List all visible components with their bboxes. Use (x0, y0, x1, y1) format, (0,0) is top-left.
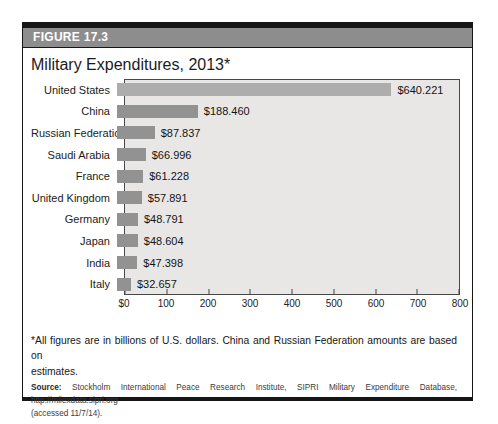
category-label: India (31, 257, 117, 269)
x-tick-label: 800 (452, 298, 469, 309)
footnote-line2: estimates. (31, 364, 457, 379)
bar-track: $48.791 (117, 213, 460, 226)
bar-row: China$188.460 (31, 101, 460, 123)
value-label: $32.657 (137, 278, 177, 290)
value-label: $48.791 (144, 213, 184, 225)
footnote-line1: *All figures are in billions of U.S. dol… (31, 333, 457, 364)
bar (117, 170, 143, 183)
bar-track: $66.996 (117, 148, 460, 161)
x-tick-label: 100 (158, 298, 175, 309)
bar-track: $61.228 (117, 170, 460, 183)
chart-title: Military Expenditures, 2013* (31, 56, 460, 74)
x-tick-label: 700 (410, 298, 427, 309)
bar-row: Italy$32.657 (31, 273, 460, 295)
bar-row: Japan$48.604 (31, 230, 460, 252)
category-label: Italy (31, 278, 117, 290)
source-line1: Source: Stockholm International Peace Re… (31, 382, 457, 407)
value-label: $188.460 (204, 105, 250, 117)
bar-track: $47.398 (117, 256, 460, 269)
bar-row: Germany$48.791 (31, 209, 460, 231)
source-text: Stockholm International Peace Research I… (31, 383, 457, 405)
bar (117, 256, 137, 269)
x-tick-label: $0 (118, 298, 129, 309)
bar-track: $57.891 (117, 191, 460, 204)
bar (117, 191, 142, 204)
source-note: Source: Stockholm International Peace Re… (31, 382, 460, 420)
bar-track: $640.221 (117, 83, 460, 96)
bar (117, 83, 391, 96)
bar-row: India$47.398 (31, 252, 460, 274)
x-tick-label: 300 (242, 298, 259, 309)
bar-track: $32.657 (117, 278, 460, 291)
x-axis: $0100200300400500600700800 (124, 296, 460, 311)
bar-row: France$61.228 (31, 165, 460, 187)
x-tick-label: 400 (284, 298, 301, 309)
value-label: $48.604 (144, 235, 184, 247)
category-label: Japan (31, 235, 117, 247)
bar-track: $188.460 (117, 105, 460, 118)
figure-box: FIGURE 17.3 Military Expenditures, 2013*… (22, 22, 473, 405)
bar (117, 148, 146, 161)
source-line2: (accessed 11/7/14). (31, 408, 457, 421)
category-label: China (31, 105, 117, 117)
x-tick-label: 500 (326, 298, 343, 309)
x-tick-label: 600 (368, 298, 385, 309)
figure-body: Military Expenditures, 2013* United Stat… (22, 48, 473, 401)
value-label: $640.221 (397, 84, 443, 96)
bar-row: United States$640.221 (31, 79, 460, 101)
value-label: $87.837 (161, 127, 201, 139)
category-label: France (31, 170, 117, 182)
bar-row: United Kingdom$57.891 (31, 187, 460, 209)
value-label: $66.996 (152, 149, 192, 161)
bar-chart: United States$640.221China$188.460Russia… (31, 79, 460, 311)
figure-number-label: FIGURE 17.3 (33, 30, 108, 44)
figure-header-bar: FIGURE 17.3 (22, 28, 473, 48)
category-label: Russian Federation (31, 127, 117, 139)
value-label: $57.891 (148, 192, 188, 204)
bar-track: $48.604 (117, 234, 460, 247)
bar (117, 105, 198, 118)
bar-row: Saudi Arabia$66.996 (31, 144, 460, 166)
page-background: FIGURE 17.3 Military Expenditures, 2013*… (0, 0, 498, 424)
bar-rows: United States$640.221China$188.460Russia… (31, 79, 460, 295)
bar (117, 234, 138, 247)
value-label: $47.398 (143, 257, 183, 269)
bar (117, 126, 155, 139)
category-label: United States (31, 84, 117, 96)
category-label: Germany (31, 213, 117, 225)
bar-row: Russian Federation$87.837 (31, 122, 460, 144)
category-label: Saudi Arabia (31, 149, 117, 161)
value-label: $61.228 (149, 170, 189, 182)
bar-track: $87.837 (117, 126, 460, 139)
footnote: *All figures are in billions of U.S. dol… (31, 333, 460, 379)
bar (117, 213, 138, 226)
category-label: United Kingdom (31, 192, 117, 204)
bar (117, 278, 131, 291)
source-label: Source: (31, 383, 61, 392)
x-tick-label: 200 (200, 298, 217, 309)
